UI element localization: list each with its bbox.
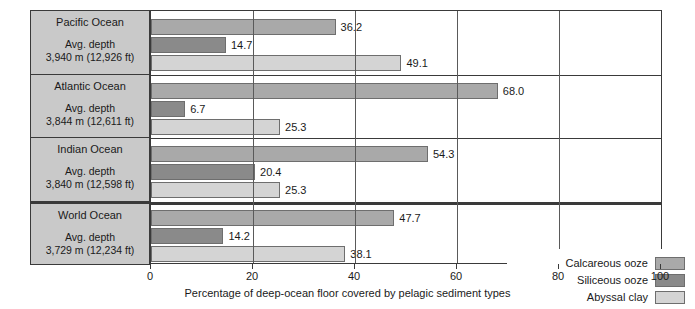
legend-item-calcareous-ooze: Calcareous ooze: [507, 255, 685, 271]
average-depth-value: 3,844 m (12,611 ft): [46, 115, 134, 128]
x-axis-tick-label: 60: [436, 270, 476, 282]
x-axis-tick: [456, 264, 457, 269]
x-axis-tick-label: 20: [232, 270, 272, 282]
gridline: [457, 11, 458, 263]
average-depth-caption: Avg. depth: [46, 102, 134, 115]
row-separator: [151, 202, 661, 205]
bar-calcareous-ooze: [151, 210, 394, 226]
bar-value-label-calcareous-ooze: 47.7: [394, 210, 420, 226]
average-depth-block: Avg. depth3,844 m (12,611 ft): [46, 102, 134, 128]
bar-abyssal-clay: [151, 55, 401, 71]
bar-value-label-abyssal-clay: 25.3: [280, 119, 306, 135]
bar-calcareous-ooze: [151, 83, 498, 99]
average-depth-value: 3,840 m (12,598 ft): [46, 178, 135, 191]
x-axis-tick: [354, 264, 355, 269]
average-depth-caption: Avg. depth: [46, 165, 135, 178]
bar-value-label-calcareous-ooze: 68.0: [498, 83, 524, 99]
bar-abyssal-clay: [151, 119, 280, 135]
ocean-name: Atlantic Ocean: [54, 79, 126, 93]
bar-value-label-siliceous-ooze: 14.2: [223, 228, 249, 244]
bar-siliceous-ooze: [151, 101, 185, 117]
gridline: [559, 11, 560, 263]
ocean-name: Pacific Ocean: [56, 15, 124, 29]
bar-value-label-siliceous-ooze: 6.7: [185, 101, 205, 117]
bar-value-label-siliceous-ooze: 20.4: [255, 164, 281, 180]
bar-value-label-abyssal-clay: 49.1: [401, 55, 427, 71]
legend-label-siliceous-ooze: Siliceous ooze: [577, 274, 648, 286]
bar-calcareous-ooze: [151, 146, 428, 162]
ocean-name: World Ocean: [58, 208, 122, 222]
ocean-label-panel: Pacific OceanAvg. depth3,940 m (12,926 f…: [30, 10, 150, 264]
gridline: [253, 11, 254, 263]
ocean-label-cell: Indian OceanAvg. depth3,840 m (12,598 ft…: [30, 137, 150, 201]
bar-value-label-abyssal-clay: 38.1: [345, 246, 371, 262]
x-axis-title: Percentage of deep-ocean floor covered b…: [0, 287, 695, 299]
average-depth-value: 3,940 m (12,926 ft): [46, 51, 135, 64]
ocean-name: Indian Ocean: [57, 142, 122, 156]
ocean-label-cell: Pacific OceanAvg. depth3,940 m (12,926 f…: [30, 10, 150, 74]
bar-abyssal-clay: [151, 246, 345, 262]
average-depth-caption: Avg. depth: [46, 38, 135, 51]
x-axis-tick: [660, 264, 661, 269]
bar-abyssal-clay: [151, 182, 280, 198]
row-separator: [151, 75, 661, 76]
bar-siliceous-ooze: [151, 164, 255, 180]
x-axis-tick: [558, 264, 559, 269]
average-depth-block: Avg. depth3,940 m (12,926 ft): [46, 38, 135, 64]
legend-label-calcareous-ooze: Calcareous ooze: [565, 257, 648, 269]
bar-value-label-siliceous-ooze: 14.7: [226, 37, 252, 53]
x-axis-tick: [252, 264, 253, 269]
plot-area: 36.214.749.168.06.725.354.320.425.347.71…: [150, 10, 662, 264]
ocean-label-cell: World OceanAvg. depth3,729 m (12,234 ft): [30, 201, 150, 265]
bar-value-label-abyssal-clay: 25.3: [280, 182, 306, 198]
average-depth-caption: Avg. depth: [46, 231, 135, 244]
pelagic-sediment-bar-chart: Pacific OceanAvg. depth3,940 m (12,926 f…: [0, 0, 695, 309]
row-separator: [151, 138, 661, 139]
average-depth-value: 3,729 m (12,234 ft): [46, 244, 135, 257]
bar-calcareous-ooze: [151, 19, 336, 35]
gridline: [355, 11, 356, 263]
average-depth-block: Avg. depth3,840 m (12,598 ft): [46, 165, 135, 191]
bar-value-label-calcareous-ooze: 36.2: [336, 19, 362, 35]
x-axis-tick-label: 100: [640, 270, 680, 282]
x-axis-tick-label: 0: [130, 270, 170, 282]
bar-value-label-calcareous-ooze: 54.3: [428, 146, 454, 162]
x-axis-tick: [150, 264, 151, 269]
bar-siliceous-ooze: [151, 228, 223, 244]
x-axis-tick-label: 80: [538, 270, 578, 282]
bar-siliceous-ooze: [151, 37, 226, 53]
average-depth-block: Avg. depth3,729 m (12,234 ft): [46, 231, 135, 257]
x-axis-tick-label: 40: [334, 270, 374, 282]
ocean-label-cell: Atlantic OceanAvg. depth3,844 m (12,611 …: [30, 74, 150, 138]
